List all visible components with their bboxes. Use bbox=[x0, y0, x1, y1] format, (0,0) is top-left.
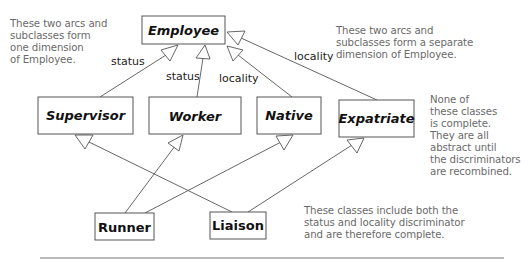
discriminator-label-locality: locality bbox=[294, 50, 334, 63]
svg-text:the discriminators: the discriminators bbox=[430, 154, 521, 165]
generalization-arrowhead-icon bbox=[196, 45, 210, 59]
class-native[interactable]: Native bbox=[257, 97, 321, 134]
note-left: These two arcs and subclasses form one d… bbox=[9, 18, 107, 65]
note-top-right: These two arcs and subclasses form a sep… bbox=[335, 25, 473, 60]
generalization-arrowhead-icon bbox=[227, 31, 245, 45]
svg-text:These two arcs and: These two arcs and bbox=[9, 18, 107, 29]
discriminator-label-locality: locality bbox=[219, 72, 259, 85]
class-liaison[interactable]: Liaison bbox=[210, 212, 266, 239]
discriminator-label-status: status bbox=[166, 70, 200, 83]
class-name: Runner bbox=[98, 220, 152, 235]
svg-text:of Employee.: of Employee. bbox=[10, 54, 76, 65]
arc-liaison-supervisor bbox=[75, 135, 232, 212]
class-name: Liaison bbox=[212, 218, 264, 233]
svg-text:these classes: these classes bbox=[430, 106, 497, 117]
class-expatriate[interactable]: Expatriate bbox=[338, 100, 414, 137]
svg-text:None of: None of bbox=[430, 94, 469, 105]
class-name: Employee bbox=[148, 23, 219, 38]
svg-text:are recombined.: are recombined. bbox=[430, 166, 512, 177]
generalization-arrowhead-icon bbox=[75, 135, 93, 149]
generalization-arrowhead-icon bbox=[161, 45, 178, 61]
class-employee[interactable]: Employee bbox=[142, 16, 225, 44]
svg-text:These two arcs and: These two arcs and bbox=[335, 25, 433, 36]
generalization-arrowhead-icon bbox=[347, 138, 364, 153]
class-runner[interactable]: Runner bbox=[95, 213, 154, 240]
svg-text:abstract until: abstract until bbox=[430, 142, 496, 153]
generalization-arrowhead-icon bbox=[168, 135, 183, 151]
note-right: None of these classes is complete. They … bbox=[429, 94, 521, 177]
svg-text:status and locality discrimina: status and locality discriminator bbox=[304, 217, 465, 228]
svg-text:one dimension: one dimension bbox=[10, 42, 84, 53]
generalization-arrowhead-icon bbox=[227, 46, 243, 61]
svg-text:They are all: They are all bbox=[429, 130, 489, 141]
class-name: Supervisor bbox=[46, 108, 127, 123]
class-name: Expatriate bbox=[338, 111, 414, 126]
uml-generalization-diagram: Employee Supervisor Worker Native Expatr… bbox=[0, 0, 532, 265]
discriminator-label-status: status bbox=[111, 55, 145, 68]
class-supervisor[interactable]: Supervisor bbox=[38, 97, 133, 134]
svg-text:dimension of Employee.: dimension of Employee. bbox=[336, 49, 457, 60]
class-name: Worker bbox=[169, 109, 223, 124]
svg-text:is complete.: is complete. bbox=[430, 118, 491, 129]
arc-runner-native bbox=[145, 135, 293, 213]
svg-text:and are therefore complete.: and are therefore complete. bbox=[304, 229, 444, 240]
generalization-arrowhead-icon bbox=[276, 135, 293, 150]
svg-text:subclasses form: subclasses form bbox=[10, 30, 91, 41]
class-name: Native bbox=[265, 108, 313, 123]
svg-text:These classes include both the: These classes include both the bbox=[303, 205, 458, 216]
svg-text:subclasses form a separate: subclasses form a separate bbox=[336, 37, 473, 48]
class-worker[interactable]: Worker bbox=[149, 97, 241, 134]
note-bottom: These classes include both the status an… bbox=[303, 205, 465, 240]
arc-liaison-expatriate bbox=[248, 138, 364, 212]
